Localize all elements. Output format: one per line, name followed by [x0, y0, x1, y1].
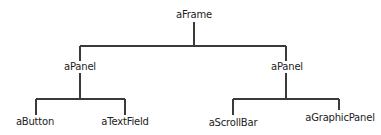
node-abutton: aButton: [16, 116, 54, 128]
node-aframe: aFrame: [176, 9, 212, 21]
node-apanel-right: aPanel: [271, 61, 303, 73]
node-apanel-left: aPanel: [64, 61, 96, 73]
node-atextfield: aTextField: [101, 116, 148, 128]
component-tree-diagram: aFrame aPanel aPanel aButton aTextField …: [0, 0, 381, 135]
node-ascrollbar: aScrollBar: [209, 117, 258, 129]
node-agraphicpanel: aGraphicPanel: [305, 112, 374, 124]
